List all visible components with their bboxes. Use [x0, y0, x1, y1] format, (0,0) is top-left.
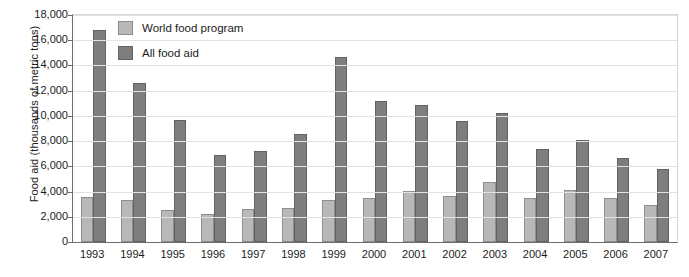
bar-group — [524, 15, 549, 242]
gridline — [73, 217, 677, 218]
bar — [322, 200, 334, 242]
y-axis-tickmark — [68, 141, 73, 142]
legend-label-all-food-aid: All food aid — [142, 47, 199, 59]
legend-label-world-food-program: World food program — [142, 22, 243, 34]
bar — [604, 198, 616, 242]
bar-group — [644, 15, 669, 242]
legend-swatch-icon-all-food-aid — [118, 46, 133, 60]
y-axis-tickmark — [68, 217, 73, 218]
x-axis-tick-label: 2002 — [442, 248, 466, 260]
bar-chart: Food aid (thousands of metric tons) 02,0… — [0, 0, 689, 277]
x-axis-tick-label: 1996 — [201, 248, 225, 260]
gridline — [73, 166, 677, 167]
bar — [335, 57, 347, 242]
bar-group — [363, 15, 388, 242]
bar — [536, 149, 548, 242]
x-axis-tick-label: 2007 — [644, 248, 668, 260]
y-axis-tickmark — [68, 242, 73, 243]
y-axis-tick-labels: 02,0004,0006,0008,00010,00012,00014,0001… — [14, 0, 68, 277]
x-axis-tick-label: 2000 — [362, 248, 386, 260]
x-axis-tick-labels: 1993199419951996199719981999200020012002… — [72, 248, 678, 268]
bar — [254, 151, 266, 242]
x-axis-tick-label: 2001 — [402, 248, 426, 260]
bar — [282, 208, 294, 242]
legend-item-world-food-program: World food program — [118, 18, 243, 38]
x-axis-tick-label: 1993 — [80, 248, 104, 260]
bar — [363, 198, 375, 242]
bar-group — [483, 15, 508, 242]
bar — [201, 214, 213, 242]
y-axis-tick-label: 12,000 — [14, 84, 68, 96]
bar — [617, 158, 629, 242]
bar — [214, 155, 226, 242]
y-axis-tick-label: 10,000 — [14, 109, 68, 121]
bar-group — [81, 15, 106, 242]
legend-swatch-icon-world-food-program — [118, 21, 133, 35]
bar-group — [242, 15, 267, 242]
y-axis-tick-label: 18,000 — [14, 8, 68, 20]
gridline — [73, 15, 677, 16]
y-axis-tick-label: 2,000 — [14, 210, 68, 222]
bar — [294, 134, 306, 242]
gridline — [73, 141, 677, 142]
bar — [496, 113, 508, 242]
bar — [174, 120, 186, 242]
bar-group — [322, 15, 347, 242]
legend: World food program All food aid — [118, 18, 243, 68]
x-axis-tick-label: 2005 — [563, 248, 587, 260]
bar — [93, 30, 105, 242]
y-axis-tick-label: 4,000 — [14, 185, 68, 197]
bar — [81, 197, 93, 242]
bar — [657, 169, 669, 242]
bar-group — [443, 15, 468, 242]
bar — [121, 200, 133, 242]
y-axis-tickmark — [68, 40, 73, 41]
gridline — [73, 192, 677, 193]
bar — [242, 209, 254, 242]
y-axis-tick-label: 0 — [14, 235, 68, 247]
bar-group — [564, 15, 589, 242]
bar — [644, 205, 656, 242]
bar — [375, 101, 387, 242]
y-axis-tickmark — [68, 65, 73, 66]
bar — [524, 198, 536, 242]
bar-group — [403, 15, 428, 242]
y-axis-tickmark — [68, 116, 73, 117]
x-axis-tick-label: 1999 — [321, 248, 345, 260]
bar — [161, 210, 173, 242]
x-axis-tick-label: 2003 — [483, 248, 507, 260]
bar — [415, 105, 427, 242]
y-axis-tickmark — [68, 15, 73, 16]
y-axis-tick-label: 6,000 — [14, 159, 68, 171]
gridline — [73, 91, 677, 92]
bar — [133, 83, 145, 242]
y-axis-tickmark — [68, 192, 73, 193]
y-axis-tickmark — [68, 166, 73, 167]
x-axis-tick-label: 1997 — [241, 248, 265, 260]
bar — [456, 121, 468, 242]
bar — [443, 196, 455, 242]
x-axis-tick-label: 1995 — [160, 248, 184, 260]
legend-item-all-food-aid: All food aid — [118, 43, 243, 63]
bar-group — [282, 15, 307, 242]
x-axis-tick-label: 1998 — [281, 248, 305, 260]
gridline — [73, 116, 677, 117]
x-axis-tick-label: 2006 — [603, 248, 627, 260]
x-axis-tick-label: 1994 — [120, 248, 144, 260]
y-axis-tickmark — [68, 91, 73, 92]
x-axis-tick-label: 2004 — [523, 248, 547, 260]
y-axis-tick-label: 8,000 — [14, 134, 68, 146]
y-axis-tick-label: 14,000 — [14, 58, 68, 70]
bar-group — [604, 15, 629, 242]
y-axis-tick-label: 16,000 — [14, 33, 68, 45]
